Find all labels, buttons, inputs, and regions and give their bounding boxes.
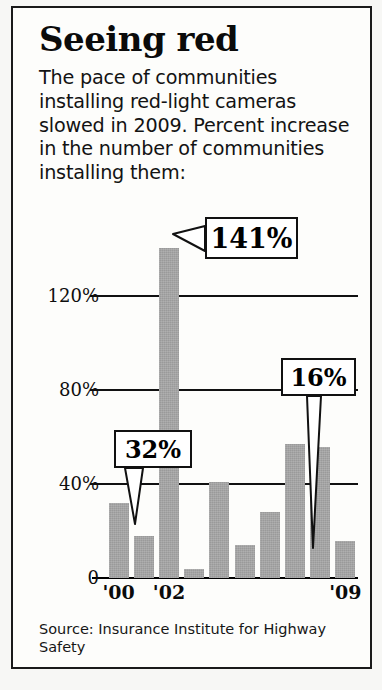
page-title: Seeing red bbox=[39, 22, 238, 58]
callout-141: 141% bbox=[205, 217, 298, 259]
bar-06 bbox=[260, 512, 280, 578]
bar-08 bbox=[310, 447, 330, 578]
bar-03 bbox=[184, 569, 204, 578]
x-tick-label-02: '02 bbox=[153, 581, 185, 603]
bar-07 bbox=[285, 444, 305, 578]
infographic-root: Seeing red The pace of communities insta… bbox=[0, 0, 382, 690]
y-tick-label-80: 80% bbox=[59, 379, 99, 400]
bar-05 bbox=[235, 545, 255, 578]
x-tick-label-09: '09 bbox=[329, 581, 361, 603]
x-tick-label-00: '00 bbox=[102, 581, 134, 603]
callout-32: 32% bbox=[114, 430, 192, 468]
infographic-frame: Seeing red The pace of communities insta… bbox=[11, 6, 372, 669]
bar-09 bbox=[335, 541, 355, 579]
bar-02 bbox=[159, 248, 179, 578]
source-note: Source: Insurance Institute for Highway … bbox=[39, 621, 339, 656]
bar-00 bbox=[109, 503, 129, 578]
chart-subtitle: The pace of communities installing red-l… bbox=[39, 66, 355, 185]
y-tick-label-120: 120% bbox=[48, 285, 99, 306]
bar-01 bbox=[134, 536, 154, 578]
y-tick-label-0: 0 bbox=[88, 567, 99, 588]
y-tick-label-40: 40% bbox=[59, 473, 99, 494]
bar-04 bbox=[209, 482, 229, 578]
bar-chart: 120% 80% 40% 0 '00 '02 '09 bbox=[13, 203, 370, 598]
callout-16: 16% bbox=[281, 358, 356, 396]
